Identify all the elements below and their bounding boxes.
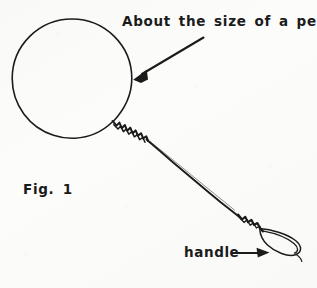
wire-shaft [147,140,241,218]
loop-circle [12,19,132,138]
penny-caption-label: About the size of a penny [122,13,317,29]
handle-loop [260,229,302,262]
penny-arrow [133,38,203,84]
handle-caption-label: handle [184,244,239,260]
figure-number-label: Fig. 1 [23,181,73,197]
wire-loop-diagram [0,0,317,288]
wire-twist-upper [113,121,149,142]
figure-canvas: About the size of a penny Fig. 1 handle [0,0,317,288]
loop-circle-group [12,19,132,138]
